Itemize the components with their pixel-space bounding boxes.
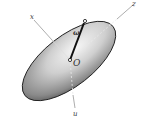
z-axis-label: z — [131, 0, 136, 8]
vector-tip-point — [83, 19, 86, 22]
z-axis-outer — [117, 5, 133, 19]
origin-point — [68, 58, 71, 61]
origin-label: O — [73, 58, 81, 68]
ellipsoid-diagram: x z u O ω — [0, 0, 141, 117]
x-axis-label: x — [30, 13, 34, 21]
omega-label: ω — [73, 28, 80, 37]
u-axis-outer — [73, 95, 75, 108]
u-axis-label: u — [73, 110, 78, 117]
